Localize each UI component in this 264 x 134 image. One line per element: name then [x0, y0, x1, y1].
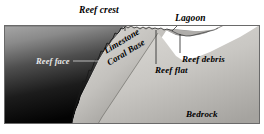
- label-reef-flat: Reef flat: [155, 66, 188, 75]
- label-bedrock: Bedrock: [186, 110, 218, 119]
- cross-section-canvas: [0, 0, 264, 134]
- label-lagoon: Lagoon: [175, 14, 206, 24]
- label-reef-face: Reef face: [36, 57, 70, 66]
- reef-cross-section-figure: Reef crest Lagoon Reef face Limestone Co…: [0, 0, 264, 134]
- label-reef-debris: Reef debris: [182, 55, 225, 64]
- label-reef-crest: Reef crest: [79, 6, 119, 16]
